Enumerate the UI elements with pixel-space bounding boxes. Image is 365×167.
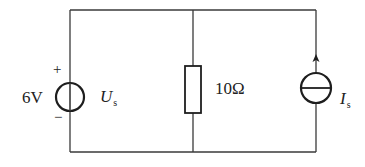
resistor-value-label: 10Ω	[215, 80, 245, 97]
voltage-symbol-main: U	[100, 87, 112, 106]
minus-sign: −	[54, 110, 62, 125]
current-symbol-label: Is	[340, 90, 351, 107]
resistor-icon	[185, 66, 201, 113]
current-symbol-main: I	[340, 89, 346, 108]
voltage-value-label: 6V	[22, 89, 43, 106]
current-source-icon	[301, 73, 331, 103]
voltage-symbol-label: Us	[100, 88, 117, 105]
current-symbol-subscript: s	[347, 99, 351, 110]
plus-sign: +	[53, 62, 61, 77]
circuit-schematic	[0, 0, 365, 167]
voltage-source-icon	[56, 83, 84, 111]
voltage-symbol-subscript: s	[113, 97, 117, 108]
circuit-diagram: + − 6V Us 10Ω Is	[0, 0, 365, 167]
